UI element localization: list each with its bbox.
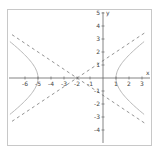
- x-tick-label: 2: [127, 80, 131, 87]
- x-tick-label: -6: [22, 80, 28, 87]
- x-tick-label: -2: [74, 80, 80, 87]
- y-tick-label: -3: [94, 113, 100, 120]
- x-tick-label: 3: [140, 80, 144, 87]
- y-tick-label: 1: [96, 61, 100, 68]
- y-axis-label: y: [106, 9, 110, 17]
- x-tick-label: -3: [61, 80, 67, 87]
- plot-frame: [8, 10, 152, 146]
- y-tick-label: -4: [94, 126, 100, 133]
- y-tick-label: -2: [94, 100, 100, 107]
- x-tick-label: -5: [35, 80, 41, 87]
- y-tick-label: -1: [94, 87, 100, 94]
- x-axis-label: x: [146, 69, 150, 76]
- x-tick-label: -1: [87, 80, 93, 87]
- y-tick-label: 2: [96, 48, 100, 55]
- y-tick-label: 3: [96, 35, 100, 42]
- y-tick-label: 4: [96, 22, 100, 29]
- y-tick-label: 5: [96, 9, 100, 16]
- x-tick-label: 1: [114, 80, 118, 87]
- hyperbola-chart: -6-5-4-3-2-1123-4-3-2-112345xy: [0, 0, 156, 153]
- x-tick-label: -4: [48, 80, 54, 87]
